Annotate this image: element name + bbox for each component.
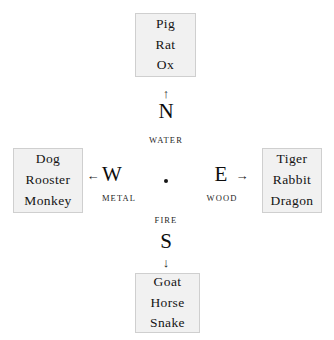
zodiac-animal: Rat xyxy=(156,35,176,56)
direction-label-west: W xyxy=(99,164,125,185)
direction-label-east: E xyxy=(208,164,234,185)
zodiac-box-east: Tiger Rabbit Dragon xyxy=(262,148,322,213)
zodiac-animal: Monkey xyxy=(24,191,71,212)
zodiac-animal: Snake xyxy=(150,313,185,334)
arrow-right-icon: → xyxy=(234,169,250,182)
zodiac-animal: Pig xyxy=(156,14,175,35)
compass-zodiac-diagram: Pig Rat Ox ↑ N WATER Dog Rooster Monkey … xyxy=(0,0,334,340)
zodiac-box-north: Pig Rat Ox xyxy=(135,13,196,77)
zodiac-animal: Rooster xyxy=(26,170,71,191)
zodiac-animal: Ox xyxy=(157,55,174,76)
zodiac-animal: Dog xyxy=(36,149,60,170)
arrow-down-icon: ↓ xyxy=(153,256,179,269)
element-label-metal: METAL xyxy=(90,194,148,203)
center-dot-icon xyxy=(164,179,168,183)
zodiac-box-west: Dog Rooster Monkey xyxy=(13,148,83,213)
direction-label-south: S xyxy=(149,231,183,252)
zodiac-animal: Dragon xyxy=(271,191,314,212)
zodiac-animal: Tiger xyxy=(277,149,308,170)
zodiac-animal: Horse xyxy=(150,293,184,314)
zodiac-animal: Rabbit xyxy=(273,170,311,191)
zodiac-animal: Goat xyxy=(154,272,182,293)
element-label-water: WATER xyxy=(136,136,196,145)
element-label-wood: WOOD xyxy=(198,194,246,203)
zodiac-box-south: Goat Horse Snake xyxy=(135,273,200,333)
element-label-fire: FIRE xyxy=(146,216,186,225)
direction-label-north: N xyxy=(149,101,183,122)
